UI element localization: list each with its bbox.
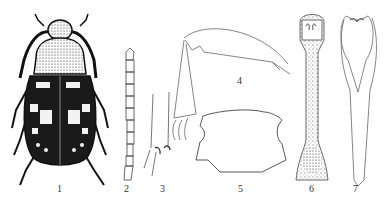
figure-4-femur (173, 29, 290, 140)
figure-label-5: 5 (238, 184, 243, 194)
figure-6-aedeagus (296, 15, 328, 181)
figure-label-2: 2 (124, 184, 129, 194)
figure-label-4: 4 (237, 76, 242, 86)
figure-1-beetle (12, 14, 108, 185)
figure-2-antenna (124, 48, 134, 180)
figure-label-1: 1 (57, 184, 62, 194)
figure-5-pronotum (196, 110, 286, 172)
illustration-plate: 1 2 3 4 5 6 7 (0, 0, 389, 205)
figure-3-leg (144, 92, 170, 176)
figure-label-6: 6 (309, 184, 314, 194)
plate-drawings (0, 0, 389, 205)
figure-label-3: 3 (160, 184, 165, 194)
figure-label-7: 7 (353, 184, 358, 194)
figure-7-paramere (341, 16, 377, 186)
